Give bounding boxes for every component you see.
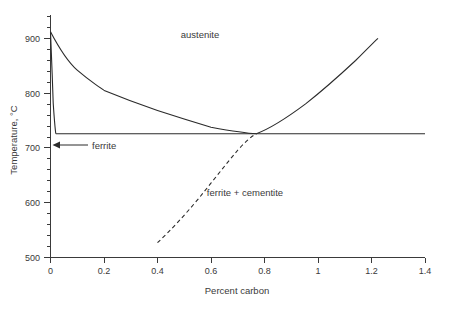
y-tick-label-700: 700 — [25, 143, 40, 153]
alpha-solvus-curve — [51, 32, 56, 134]
phase-diagram-figure: 500 600 700 800 900 0 0.2 0.4 0.6 0.8 1 … — [0, 0, 449, 310]
ferrite-arrowhead-icon — [53, 142, 61, 149]
x-axis-major-ticks — [51, 258, 426, 264]
axes-group — [51, 15, 426, 258]
acm-boundary-curve — [256, 38, 378, 133]
x-tick-label-0.8: 0.8 — [258, 266, 271, 276]
a3-boundary-curve — [51, 32, 257, 134]
x-tick-label-1.2: 1.2 — [365, 266, 378, 276]
x-axis-title: Percent carbon — [205, 285, 269, 296]
x-tick-label-0.6: 0.6 — [205, 266, 218, 276]
y-tick-label-500: 500 — [25, 253, 40, 263]
label-austenite: austenite — [181, 29, 220, 40]
label-ferrite: ferrite — [92, 140, 116, 151]
x-tick-labels: 0 0.2 0.4 0.6 0.8 1 1.2 1.4 — [48, 266, 431, 276]
y-axis-title: Temperature, °C — [8, 105, 19, 174]
x-tick-label-0.2: 0.2 — [98, 266, 111, 276]
y-tick-label-600: 600 — [25, 198, 40, 208]
y-tick-label-800: 800 — [25, 89, 40, 99]
y-tick-label-900: 900 — [25, 34, 40, 44]
x-tick-label-1: 1 — [315, 266, 320, 276]
phase-diagram-svg: 500 600 700 800 900 0 0.2 0.4 0.6 0.8 1 … — [0, 0, 449, 310]
ferrite-leader — [53, 142, 89, 149]
y-tick-labels: 500 600 700 800 900 — [25, 34, 40, 263]
x-tick-label-0.4: 0.4 — [151, 266, 164, 276]
y-axis-minor-ticks — [47, 16, 51, 246]
x-tick-label-0: 0 — [48, 266, 53, 276]
x-tick-label-1.4: 1.4 — [419, 266, 432, 276]
label-ferrite-cementite: ferrite + cementite — [207, 187, 283, 198]
